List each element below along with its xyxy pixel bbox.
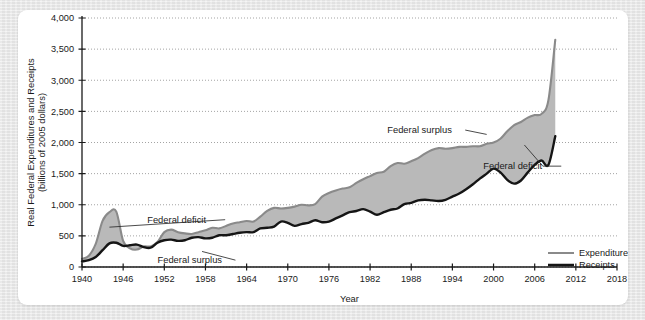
- y-tick-label: 3,500: [51, 44, 74, 54]
- x-tick-label: 1958: [195, 274, 215, 284]
- x-tick-label: 2006: [524, 274, 544, 284]
- annotation-label: Federal deficit: [483, 160, 542, 171]
- y-tick-label: 3,000: [51, 76, 74, 86]
- y-axis-title-line1: Real Federal Expenditures and Receipts: [25, 58, 36, 227]
- legend-label: Receipts: [579, 260, 615, 270]
- x-tick-label: 1946: [113, 274, 133, 284]
- annotation-label: Federal deficit: [147, 214, 206, 225]
- x-tick-label: 1940: [72, 274, 92, 284]
- y-axis-title-line2: (billions of 2005 dollars): [36, 93, 47, 192]
- figure-card: 05001,0001,5002,0002,5003,0003,5004,0001…: [18, 10, 628, 305]
- deficit-surplus-band: [82, 40, 555, 262]
- x-tick-label: 1994: [442, 274, 462, 284]
- x-tick-label: 1976: [319, 274, 339, 284]
- x-tick-label: 1982: [360, 274, 380, 284]
- y-tick-label: 1,000: [51, 200, 74, 210]
- x-tick-label: 1964: [236, 274, 256, 284]
- y-tick-label: 0: [69, 262, 74, 272]
- area-fill: [82, 40, 555, 262]
- annotation-label: Federal surplus: [387, 124, 452, 135]
- chart-canvas: 05001,0001,5002,0002,5003,0003,5004,0001…: [18, 10, 628, 305]
- x-axis-title: Year: [340, 293, 359, 304]
- y-tick-label: 1,500: [51, 169, 74, 179]
- legend-label: Expenditures: [579, 248, 628, 258]
- x-tick-label: 2000: [483, 274, 503, 284]
- x-tick-label: 1988: [401, 274, 421, 284]
- y-tick-label: 500: [59, 231, 74, 241]
- x-tick-label: 1970: [278, 274, 298, 284]
- x-tick-label: 2018: [607, 274, 627, 284]
- x-tick-label: 1952: [154, 274, 174, 284]
- y-tick-label: 2,000: [51, 138, 74, 148]
- annotation-leader-line: [465, 130, 486, 134]
- annotation-label: Federal surplus: [157, 254, 222, 265]
- x-tick-label: 2012: [566, 274, 586, 284]
- y-tick-label: 4,000: [51, 13, 74, 23]
- y-tick-label: 2,500: [51, 107, 74, 117]
